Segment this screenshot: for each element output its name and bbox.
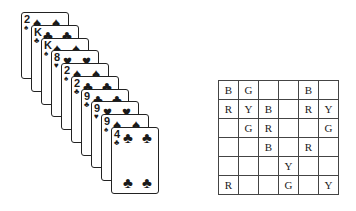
grid-cell: Y bbox=[239, 100, 259, 119]
card-fan: 2♠♠♠ K♣♣♣ K♠♠♠ 8♥♥♥ 2♠♠♠ 2♣♣♣ 9♣♣♣ 9♥♥♥ … bbox=[0, 0, 200, 211]
heart-icon: ♥ bbox=[94, 113, 99, 121]
grid-cell: R bbox=[299, 100, 319, 119]
grid-cell: Y bbox=[279, 157, 299, 176]
grid-cell bbox=[219, 138, 239, 157]
grid-cell: G bbox=[319, 119, 339, 138]
grid-row: GRG bbox=[219, 119, 339, 138]
grid-cell bbox=[259, 176, 279, 195]
grid-cell: Y bbox=[319, 100, 339, 119]
grid-cell: Y bbox=[319, 176, 339, 195]
grid-cell bbox=[319, 81, 339, 100]
grid-cell bbox=[319, 138, 339, 157]
spade-icon: ♠ bbox=[24, 24, 28, 32]
spade-icon: ♠ bbox=[104, 126, 108, 134]
club-icon: ♣ bbox=[84, 101, 89, 109]
grid-cell: R bbox=[219, 100, 239, 119]
grid-cell bbox=[239, 138, 259, 157]
suit-pip-icon: ♣ bbox=[123, 131, 133, 146]
grid-cell bbox=[239, 176, 259, 195]
grid-cell bbox=[279, 100, 299, 119]
grid-cell: G bbox=[279, 176, 299, 195]
grid-cell bbox=[259, 81, 279, 100]
suit-pip-icon: ♣ bbox=[142, 131, 152, 146]
grid-row: BGB bbox=[219, 81, 339, 100]
grid-cell bbox=[219, 119, 239, 138]
grid-cell: B bbox=[259, 100, 279, 119]
grid-row: Y bbox=[219, 157, 339, 176]
grid-cell: G bbox=[239, 119, 259, 138]
grid-cell bbox=[239, 157, 259, 176]
grid-cell bbox=[279, 119, 299, 138]
grid-cell: R bbox=[259, 119, 279, 138]
playing-card: 4♣♣♣♣♣ bbox=[111, 127, 159, 194]
club-icon: ♣ bbox=[114, 139, 119, 147]
grid-cell: R bbox=[299, 138, 319, 157]
grid-cell bbox=[279, 138, 299, 157]
grid-cell bbox=[299, 157, 319, 176]
grid-cell: B bbox=[259, 138, 279, 157]
grid-cell bbox=[299, 176, 319, 195]
grid-cell bbox=[259, 157, 279, 176]
grid-cell bbox=[219, 157, 239, 176]
grid-cell: R bbox=[219, 176, 239, 195]
grid-cell bbox=[299, 119, 319, 138]
color-letter-grid: BGB RYBRY GRG BR Y RGY bbox=[218, 80, 339, 195]
suit-pip-icon: ♣ bbox=[123, 176, 133, 191]
grid-row: BR bbox=[219, 138, 339, 157]
grid-cell: G bbox=[239, 81, 259, 100]
heart-icon: ♥ bbox=[54, 62, 59, 70]
grid-cell bbox=[279, 81, 299, 100]
grid-row: RYBRY bbox=[219, 100, 339, 119]
spade-icon: ♠ bbox=[64, 75, 68, 83]
suit-pip-icon: ♣ bbox=[142, 176, 152, 191]
grid-cell bbox=[319, 157, 339, 176]
club-icon: ♣ bbox=[34, 37, 39, 45]
grid-cell: B bbox=[299, 81, 319, 100]
grid-cell: B bbox=[219, 81, 239, 100]
club-icon: ♣ bbox=[74, 88, 79, 96]
grid-row: RGY bbox=[219, 176, 339, 195]
spade-icon: ♠ bbox=[44, 50, 48, 58]
